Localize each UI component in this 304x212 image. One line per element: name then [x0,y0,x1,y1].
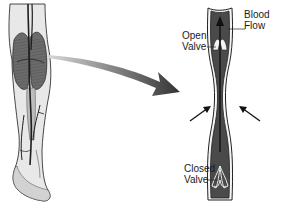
zoom-arrow [48,55,180,96]
diagram-illustration [0,0,304,212]
venous-valve-diagram: Blood Flow Open Valve Closed Valve [0,0,304,212]
leg-illustration [9,4,51,201]
blood-flow-label: Blood Flow [244,9,270,31]
closed-valve-label: Closed Valve [184,163,215,185]
open-valve-label: Open Valve [182,30,206,52]
